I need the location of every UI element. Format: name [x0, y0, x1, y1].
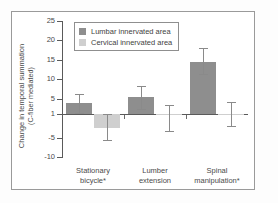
figure-chart-temporal-summation: Change in temporal summation (C-fiber me… — [0, 0, 278, 203]
errorbar-lumbar-group-2 — [203, 48, 204, 74]
y-axis-tick-20 — [57, 40, 62, 41]
errorbar-lumbar-group-1 — [141, 86, 142, 109]
y-axis-tick-1 — [57, 114, 62, 115]
y-axis-title-wrapper: Change in temporal summation (C-fiber me… — [13, 26, 39, 166]
errorbar-cervical-group-0 — [107, 114, 108, 140]
y-axis-tick-label-20: 20 — [47, 36, 55, 44]
y-axis-tick--10 — [57, 157, 62, 158]
errorbar-cap-lower-cervical-group-1 — [165, 131, 174, 132]
errorbar-cap-lower-cervical-group-2 — [227, 126, 236, 127]
y-axis-title-line1: Change in temporal summation — [17, 44, 26, 148]
errorbar-cap-upper-lumbar-group-0 — [75, 94, 84, 95]
y-axis-title: Change in temporal summation (C-fiber me… — [13, 26, 39, 166]
errorbar-cap-upper-cervical-group-0 — [103, 114, 112, 115]
errorbar-cap-lower-lumbar-group-0 — [75, 113, 84, 114]
y-axis-tick-label--5: -5 — [48, 134, 55, 142]
y-axis-tick-label-15: 15 — [47, 56, 55, 64]
x-axis-category-spinal-manipulation: Spinal manipulation* — [172, 166, 262, 185]
legend-label-lumbar: Lumbar innervated area — [91, 27, 171, 36]
errorbar-cervical-group-2 — [231, 102, 232, 126]
y-axis-tick-label-10: 10 — [47, 75, 55, 83]
y-axis-tick-15 — [57, 60, 62, 61]
y-axis-tick-label-1: 1 — [51, 110, 55, 118]
legend-label-cervical: Cervical innervated area — [91, 38, 172, 47]
chart-legend: Lumbar innervated area Cervical innervat… — [74, 22, 179, 51]
x-axis-category-2-line2: manipulation* — [172, 176, 262, 186]
errorbar-cap-upper-cervical-group-2 — [227, 102, 236, 103]
legend-item-cervical: Cervical innervated area — [79, 37, 172, 47]
errorbar-cap-upper-cervical-group-1 — [165, 105, 174, 106]
errorbar-cap-lower-lumbar-group-2 — [199, 74, 208, 75]
y-axis-tick-10 — [57, 79, 62, 80]
baseline-separator-1 — [124, 115, 125, 119]
errorbar-lumbar-group-0 — [79, 94, 80, 114]
y-axis-tick-label--10: -10 — [44, 153, 55, 161]
legend-swatch-lumbar-icon — [79, 28, 86, 35]
y-axis-tick-5 — [57, 99, 62, 100]
errorbar-cap-upper-lumbar-group-2 — [199, 48, 208, 49]
y-axis-tick-label-5: 5 — [51, 95, 55, 103]
y-axis-line — [62, 21, 63, 158]
errorbar-cervical-group-1 — [169, 105, 170, 131]
x-axis-category-2-line1: Spinal — [172, 166, 262, 176]
errorbar-cap-lower-cervical-group-0 — [103, 140, 112, 141]
y-axis-tick--5 — [57, 138, 62, 139]
errorbar-cap-upper-lumbar-group-1 — [137, 86, 146, 87]
y-axis-tick-25 — [57, 21, 62, 22]
baseline-separator-2 — [186, 115, 187, 119]
y-axis-tick-label-25: 25 — [47, 17, 55, 25]
legend-item-lumbar: Lumbar innervated area — [79, 26, 172, 36]
errorbar-cap-lower-lumbar-group-1 — [137, 109, 146, 110]
legend-swatch-cervical-icon — [79, 39, 86, 46]
y-axis-title-line2: (C-fiber mediated) — [26, 67, 35, 125]
